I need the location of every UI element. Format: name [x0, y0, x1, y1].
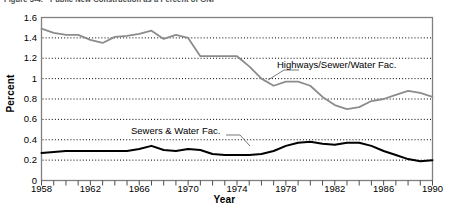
x-axis-title: Year [0, 194, 449, 205]
x-axis-tick-label: 1982 [313, 183, 357, 194]
x-axis-tick-label: 1962 [68, 183, 112, 194]
x-axis-tick-label: 1970 [166, 183, 210, 194]
x-axis-tick-label: 1974 [215, 183, 259, 194]
leader-line-sewers [226, 135, 250, 146]
x-axis-tick-label: 1958 [20, 183, 64, 194]
figure-container: Figure 3-4.Public New Construction as a … [0, 0, 449, 208]
x-axis-tick-label: 1978 [264, 183, 308, 194]
chart-plot-area [0, 0, 449, 208]
series-annotation-sewers: Sewers & Water Fac. [131, 126, 220, 136]
series-line-sewers [42, 142, 433, 161]
x-axis-tick-label: 1990 [411, 183, 449, 194]
x-axis-tick-label: 1986 [362, 183, 406, 194]
series-annotation-highways: Highways/Sewer/Water Fac. [277, 60, 397, 70]
x-axis-tick-label: 1966 [117, 183, 161, 194]
